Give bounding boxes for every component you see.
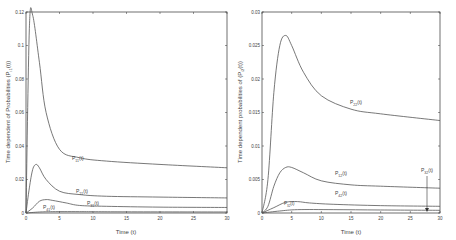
x-tick-label: 5 bbox=[58, 216, 61, 221]
x-tick-label: 10 bbox=[90, 216, 96, 221]
label-p32: P32(t) bbox=[421, 167, 433, 175]
x-tick-label: 0 bbox=[25, 216, 28, 221]
x-tick-label: 30 bbox=[437, 216, 443, 221]
y-tick-label: 0 bbox=[257, 211, 260, 216]
x-tick-label: 25 bbox=[408, 216, 414, 221]
left-axes: 05101520253000.020.040.060.080.10.12 bbox=[15, 10, 230, 222]
x-tick-label: 5 bbox=[290, 216, 293, 221]
plot-frame bbox=[26, 12, 227, 213]
label-p42: P42(t) bbox=[335, 190, 347, 198]
left-chart: 05101520253000.020.040.060.080.10.12 Tim… bbox=[0, 0, 230, 240]
right-lines bbox=[262, 35, 440, 213]
plot-frame bbox=[262, 12, 440, 213]
y-tick-label: 0.02 bbox=[15, 177, 24, 182]
series-line-P_31(t) bbox=[26, 200, 227, 213]
x-tick-label: 20 bbox=[378, 216, 384, 221]
y-tick-label: 0.025 bbox=[249, 43, 261, 48]
left-lines bbox=[26, 8, 227, 213]
series-line-P_11(t) bbox=[26, 8, 227, 213]
y-tick-label: 0.06 bbox=[15, 110, 24, 115]
y-tick-label: 0.02 bbox=[251, 77, 260, 82]
x-tick-label: 15 bbox=[124, 216, 130, 221]
series-line-P_22(t) bbox=[262, 35, 440, 213]
y-tick-label: 0.03 bbox=[251, 10, 260, 15]
x-tick-label: 0 bbox=[261, 216, 264, 221]
left-ylabel: Time dependent of Probabilities (Pi1(t)) bbox=[5, 61, 13, 164]
series-line-P_21(t) bbox=[26, 164, 227, 213]
label-p12: P12(t) bbox=[335, 170, 347, 178]
y-tick-label: 0.005 bbox=[249, 177, 261, 182]
y-tick-label: 0.12 bbox=[15, 10, 24, 15]
y-tick-label: 0.1 bbox=[18, 43, 25, 48]
x-tick-label: 10 bbox=[319, 216, 325, 221]
y-tick-label: 0.08 bbox=[15, 77, 24, 82]
x-tick-label: 25 bbox=[191, 216, 197, 221]
right-xlabel: Time (t) bbox=[341, 229, 361, 235]
y-tick-label: 0.04 bbox=[15, 144, 24, 149]
right-ylabel: Time dependent probabilities of (Pi2(t)) bbox=[237, 61, 245, 163]
right-chart: 05101520253000.0050.010.0150.020.0250.03… bbox=[230, 0, 456, 240]
y-tick-label: 0.01 bbox=[251, 144, 260, 149]
left-xlabel: Time (t) bbox=[116, 229, 136, 235]
x-tick-label: 20 bbox=[157, 216, 163, 221]
y-tick-label: 0 bbox=[21, 211, 24, 216]
label-p22: P22(t) bbox=[350, 99, 362, 107]
y-tick-label: 0.015 bbox=[249, 110, 261, 115]
label-small-p32-bottom: P32(t) bbox=[284, 201, 295, 208]
x-tick-label: 15 bbox=[348, 216, 354, 221]
label-p11: P11(t) bbox=[72, 155, 84, 163]
label-p41: P41(t) bbox=[43, 204, 55, 212]
